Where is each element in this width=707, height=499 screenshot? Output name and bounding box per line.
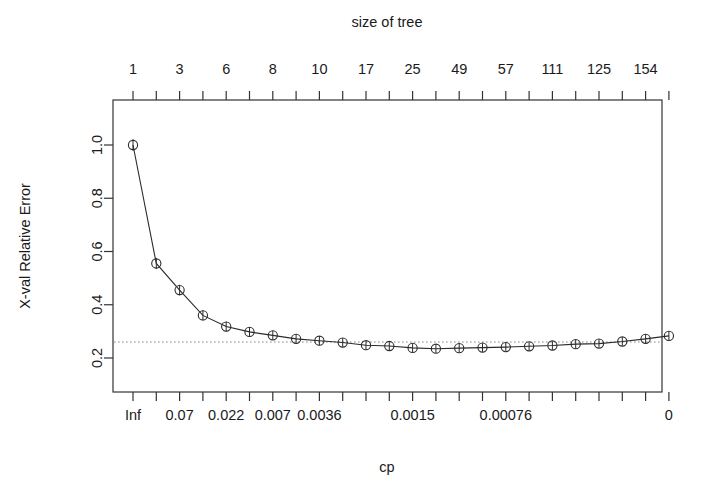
data-point-5 [245, 327, 254, 337]
data-point-14 [455, 344, 464, 353]
plot-canvas: size of tree X-val Relative Error cp 136… [0, 0, 707, 499]
point-marker-6 [268, 331, 277, 340]
data-point-10 [361, 341, 370, 350]
point-marker-8 [315, 336, 324, 345]
point-marker-10 [361, 341, 370, 350]
bottom-tick-label-12: 0.0015 [390, 407, 434, 423]
top-tick-label-16: 57 [498, 61, 514, 77]
series-points [128, 139, 673, 353]
y-axis-title: X-val Relative Error [17, 183, 33, 309]
data-point-1 [152, 258, 161, 269]
data-point-7 [292, 334, 301, 343]
data-point-12 [408, 343, 417, 352]
point-marker-9 [338, 338, 347, 347]
top-tick-label-8: 10 [311, 61, 327, 77]
bottom-axis-ticks [133, 392, 669, 401]
bottom-tick-label-23: 0 [665, 407, 673, 423]
point-marker-23 [664, 331, 673, 340]
y-tick-label-4: 1.0 [89, 135, 105, 155]
data-point-15 [478, 343, 487, 352]
top-tick-label-18: 111 [541, 61, 563, 77]
point-marker-5 [245, 327, 254, 336]
data-point-6 [268, 331, 277, 340]
y-axis-ticks [104, 145, 113, 358]
bottom-tick-label-4: 0.022 [208, 407, 244, 423]
top-tick-label-4: 6 [222, 61, 230, 77]
data-point-13 [431, 344, 440, 353]
data-point-17 [525, 342, 534, 351]
data-point-23 [664, 331, 673, 340]
data-point-18 [548, 341, 557, 350]
y-tick-label-0: 0.2 [89, 348, 105, 368]
point-marker-17 [525, 342, 534, 351]
point-marker-3 [198, 311, 207, 320]
top-tick-label-20: 125 [587, 61, 611, 77]
point-marker-20 [594, 339, 603, 348]
data-point-22 [641, 334, 650, 343]
y-tick-label-3: 0.8 [89, 188, 105, 208]
data-point-2 [175, 285, 184, 296]
point-marker-11 [385, 341, 394, 350]
bottom-tick-label-16: 0.00076 [480, 407, 532, 423]
data-point-8 [315, 336, 324, 345]
data-point-19 [571, 340, 580, 349]
data-point-11 [385, 341, 394, 350]
top-axis-title: size of tree [352, 14, 423, 30]
bottom-axis-tick-labels: Inf0.070.0220.0070.00360.00150.000760 [125, 407, 673, 423]
series-line [133, 145, 669, 349]
y-axis-tick-labels: 0.20.40.60.81.0 [89, 135, 105, 368]
point-marker-19 [571, 340, 580, 349]
data-point-0 [128, 139, 137, 151]
point-marker-15 [478, 343, 487, 352]
point-marker-4 [222, 322, 231, 331]
data-point-20 [594, 339, 603, 348]
point-marker-2 [175, 286, 184, 295]
top-tick-label-12: 25 [405, 61, 421, 77]
y-tick-label-1: 0.4 [89, 295, 105, 315]
top-tick-label-10: 17 [358, 61, 374, 77]
point-marker-12 [408, 343, 417, 352]
bottom-tick-label-8: 0.0036 [297, 407, 341, 423]
bottom-tick-label-6: 0.007 [255, 407, 291, 423]
data-point-4 [222, 322, 231, 332]
top-axis-ticks [133, 91, 669, 100]
bottom-tick-label-0: Inf [125, 407, 142, 423]
top-tick-label-14: 49 [451, 61, 467, 77]
data-point-3 [198, 310, 207, 320]
top-tick-label-2: 3 [176, 61, 184, 77]
point-marker-18 [548, 341, 557, 350]
point-marker-0 [128, 140, 137, 149]
top-axis-tick-labels: 13681017254957111125154 [129, 61, 658, 77]
top-tick-label-0: 1 [129, 61, 137, 77]
point-marker-13 [431, 344, 440, 353]
point-marker-21 [618, 337, 627, 346]
x-axis-title: cp [379, 459, 394, 475]
data-point-9 [338, 338, 347, 347]
data-point-21 [618, 337, 627, 346]
point-marker-7 [292, 334, 301, 343]
top-tick-label-6: 8 [269, 61, 277, 77]
point-marker-1 [152, 259, 161, 268]
point-marker-22 [641, 334, 650, 343]
top-tick-label-22: 154 [633, 61, 657, 77]
point-marker-16 [501, 342, 510, 351]
xerror-polyline [133, 145, 669, 349]
bottom-tick-label-2: 0.07 [165, 407, 193, 423]
point-marker-14 [455, 344, 464, 353]
rpart-cv-plot: size of tree X-val Relative Error cp 136… [0, 0, 707, 499]
y-tick-label-2: 0.6 [89, 241, 105, 261]
data-point-16 [501, 342, 510, 351]
